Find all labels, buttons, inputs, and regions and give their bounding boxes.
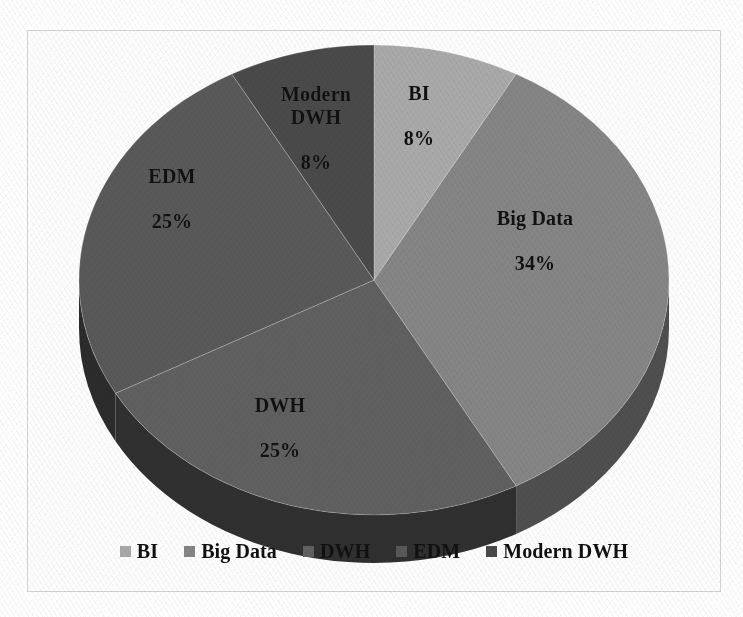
slice-label-edm-percent: 25%	[112, 210, 232, 232]
legend-item[interactable]: DWH	[303, 540, 370, 563]
chart-legend: BIBig DataDWHEDMModern DWH	[27, 531, 721, 571]
slice-label-big-data: Big Data 34%	[460, 185, 610, 297]
legend-item[interactable]: EDM	[396, 540, 460, 563]
legend-item[interactable]: BI	[120, 540, 158, 563]
slice-label-big-data-name: Big Data	[460, 207, 610, 229]
slice-label-modern-dwh: Modern DWH 8%	[250, 61, 382, 195]
slice-label-dwh-percent: 25%	[205, 439, 355, 461]
legend-item-label: DWH	[320, 540, 370, 563]
legend-item[interactable]: Modern DWH	[486, 540, 628, 563]
slice-label-modern-dwh-percent: 8%	[250, 151, 382, 173]
legend-item-label: Modern DWH	[503, 540, 628, 563]
pie-chart-figure: Modern DWH 8% BI 8% Big Data 34% DWH 25%…	[0, 0, 743, 617]
legend-item-label: EDM	[413, 540, 460, 563]
slice-label-dwh-name: DWH	[205, 394, 355, 416]
legend-swatch-icon	[184, 546, 195, 557]
slice-label-edm: EDM 25%	[112, 143, 232, 255]
legend-swatch-icon	[120, 546, 131, 557]
slice-label-bi-name: BI	[373, 82, 465, 104]
slice-label-dwh: DWH 25%	[205, 372, 355, 484]
legend-item[interactable]: Big Data	[184, 540, 277, 563]
legend-item-label: Big Data	[201, 540, 277, 563]
slice-label-bi-percent: 8%	[373, 127, 465, 149]
slice-label-bi: BI 8%	[373, 60, 465, 172]
legend-swatch-icon	[396, 546, 407, 557]
legend-swatch-icon	[303, 546, 314, 557]
slice-label-edm-name: EDM	[112, 165, 232, 187]
slice-label-modern-dwh-name: Modern DWH	[250, 83, 382, 128]
slice-label-big-data-percent: 34%	[460, 252, 610, 274]
legend-item-label: BI	[137, 540, 158, 563]
legend-swatch-icon	[486, 546, 497, 557]
